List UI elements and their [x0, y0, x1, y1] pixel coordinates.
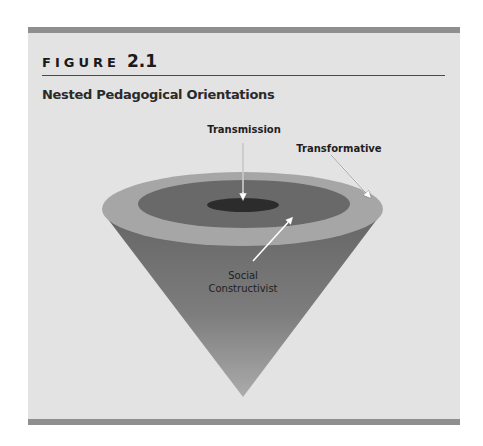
- social-label-line1: Social: [228, 270, 258, 281]
- transformative-label: Transformative: [296, 143, 382, 154]
- transmission-layer: [207, 198, 279, 212]
- social-label-line2: Constructivist: [208, 283, 277, 294]
- transmission-label: Transmission: [207, 124, 281, 135]
- nested-cone-diagram: Transmission Transformative Social Const…: [0, 0, 483, 446]
